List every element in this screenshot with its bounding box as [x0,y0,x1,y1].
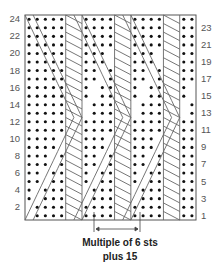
row-label-6: 6 [6,167,20,178]
row-label-18: 18 [6,65,20,76]
row-label-22: 22 [6,30,20,41]
row-label-9: 9 [201,141,217,152]
stitch-multiple-caption: Multiple of 6 sts plus 15 [70,236,170,262]
row-label-14: 14 [6,99,20,110]
knitting-chart [0,0,217,262]
row-label-4: 4 [6,184,20,195]
row-label-11: 11 [201,124,217,135]
row-label-2: 2 [6,201,20,212]
row-label-7: 7 [201,158,217,169]
row-label-23: 23 [201,22,217,33]
row-label-17: 17 [201,73,217,84]
row-label-12: 12 [6,116,20,127]
row-label-3: 3 [201,193,217,204]
row-label-20: 20 [6,47,20,58]
row-label-15: 15 [201,90,217,101]
caption-line-1: Multiple of 6 sts [70,236,170,250]
row-label-8: 8 [6,150,20,161]
row-label-21: 21 [201,39,217,50]
caption-line-2: plus 15 [70,250,170,262]
row-label-5: 5 [201,176,217,187]
row-label-24: 24 [6,13,20,24]
row-label-13: 13 [201,107,217,118]
row-label-10: 10 [6,133,20,144]
row-label-16: 16 [6,82,20,93]
row-label-1: 1 [201,210,217,221]
row-label-19: 19 [201,56,217,67]
